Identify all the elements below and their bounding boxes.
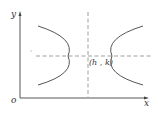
x-axis-label: x — [144, 98, 149, 108]
y-axis-label: y — [10, 9, 17, 19]
origin-label: o — [11, 95, 17, 105]
hyperbola-diagram: y x o (h , k) — [0, 0, 158, 113]
center-label: (h , k) — [89, 58, 113, 67]
right-branch — [111, 26, 143, 85]
y-axis-arrow-icon — [19, 11, 22, 16]
left-branch — [38, 26, 69, 85]
marker-dot — [30, 50, 31, 51]
